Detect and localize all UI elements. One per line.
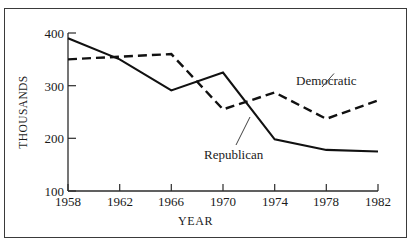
x-tick-label-1970: 1970 [201, 195, 245, 208]
x-tick-label-1966: 1966 [149, 195, 193, 208]
y-tick-label-200: 200 [30, 132, 64, 145]
y-axis-ticks [68, 33, 76, 191]
series-line-republican [68, 38, 378, 151]
y-axis-title: THOUSANDS [17, 72, 29, 152]
y-tick-label-300: 300 [30, 80, 64, 93]
x-tick-label-1962: 1962 [98, 195, 142, 208]
chart-figure: 400 300 200 100 1958 1962 1966 1970 1974… [0, 0, 413, 244]
x-tick-label-1982: 1982 [356, 195, 400, 208]
x-tick-label-1974: 1974 [253, 195, 297, 208]
x-tick-label-1978: 1978 [304, 195, 348, 208]
leader-line-republican [236, 117, 250, 145]
series-label-democratic: Democratic [296, 73, 357, 89]
x-axis-ticks [68, 184, 378, 191]
series-label-republican: Republican [204, 147, 263, 163]
y-tick-label-400: 400 [30, 27, 64, 40]
x-axis-title: YEAR [178, 214, 213, 229]
x-tick-label-1958: 1958 [46, 195, 90, 208]
